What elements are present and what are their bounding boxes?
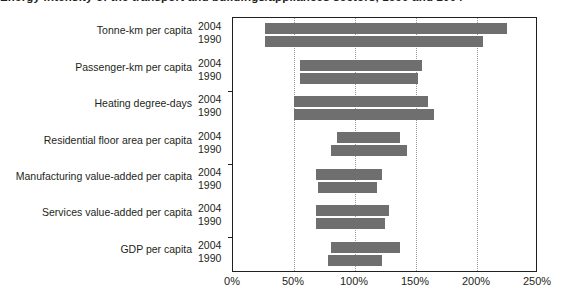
bar-row	[233, 145, 536, 156]
bar-row	[233, 205, 536, 216]
bar-group	[233, 164, 536, 200]
x-tick-label: 200%	[462, 274, 490, 288]
bar-group	[233, 200, 536, 236]
category-label: Heating degree-days	[0, 97, 192, 109]
bar-row	[233, 242, 536, 253]
year-label: 2004	[198, 94, 230, 105]
chart-figure: Tonne-km per capitaPassenger-km per capi…	[0, 0, 562, 295]
bar-row	[233, 60, 536, 71]
bar-2004[interactable]	[331, 242, 401, 253]
bar-1990[interactable]	[331, 145, 408, 156]
bar-2004[interactable]	[337, 132, 400, 143]
year-label: 2004	[198, 58, 230, 69]
bar-1990[interactable]	[265, 36, 483, 47]
category-label: Tonne-km per capita	[0, 24, 192, 36]
year-label: 1990	[198, 144, 230, 155]
bar-1990[interactable]	[318, 182, 377, 193]
year-label: 2004	[198, 203, 230, 214]
year-label: 2004	[198, 167, 230, 178]
year-label: 2004	[198, 21, 230, 32]
bar-row	[233, 23, 536, 34]
category-label: Residential floor area per capita	[0, 134, 192, 146]
bar-row	[233, 36, 536, 47]
bar-row	[233, 255, 536, 266]
category-label: Services value-added per capita	[0, 206, 192, 218]
category-label-column: Tonne-km per capitaPassenger-km per capi…	[0, 17, 196, 272]
category-label: Manufacturing value-added per capita	[0, 170, 192, 182]
bar-2004[interactable]	[265, 23, 508, 34]
bar-1990[interactable]	[328, 255, 382, 266]
bar-row	[233, 109, 536, 120]
category-label: Passenger-km per capita	[0, 61, 192, 73]
year-label: 2004	[198, 240, 230, 251]
bar-group	[233, 18, 536, 54]
category-label: GDP per capita	[0, 243, 192, 255]
bar-1990[interactable]	[294, 109, 434, 120]
bar-row	[233, 132, 536, 143]
bar-1990[interactable]	[300, 73, 418, 84]
year-label: 1990	[198, 180, 230, 191]
year-label: 1990	[198, 216, 230, 227]
x-tick-label: 50%	[282, 274, 304, 288]
bar-group	[233, 54, 536, 90]
x-tick-label: 150%	[401, 274, 429, 288]
bar-group	[233, 127, 536, 163]
bar-2004[interactable]	[316, 169, 382, 180]
bar-group	[233, 91, 536, 127]
bar-2004[interactable]	[316, 205, 389, 216]
x-tick-label: 250%	[523, 274, 551, 288]
year-label: 1990	[198, 107, 230, 118]
x-axis-tick-labels: 0%50%100%150%200%250%	[232, 274, 537, 292]
bar-row	[233, 96, 536, 107]
bar-group	[233, 237, 536, 273]
bar-row	[233, 218, 536, 229]
bar-1990[interactable]	[316, 218, 386, 229]
x-tick-label: 0%	[224, 274, 240, 288]
bar-2004[interactable]	[294, 96, 428, 107]
year-label: 1990	[198, 71, 230, 82]
bar-2004[interactable]	[300, 60, 422, 71]
bar-row	[233, 169, 536, 180]
bar-row	[233, 73, 536, 84]
year-label: 1990	[198, 253, 230, 264]
year-label: 1990	[198, 34, 230, 45]
plot-area	[232, 17, 537, 272]
year-label: 2004	[198, 131, 230, 142]
bar-row	[233, 182, 536, 193]
year-label-column: 2004199020041990200419902004199020041990…	[198, 17, 230, 272]
x-tick-label: 100%	[340, 274, 368, 288]
